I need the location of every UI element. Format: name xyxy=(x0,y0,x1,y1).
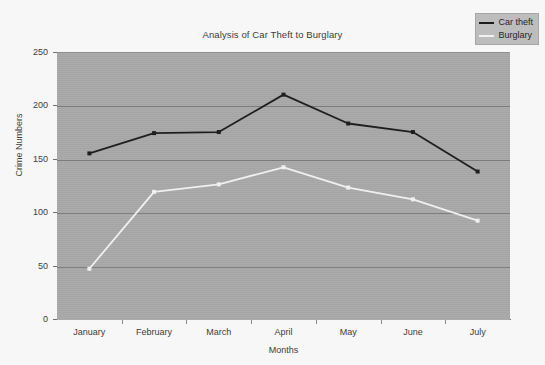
x-tick-label: February xyxy=(136,327,172,337)
y-tick-label: 50 xyxy=(0,261,48,271)
data-point xyxy=(346,121,350,125)
data-point xyxy=(152,131,156,135)
legend-item-car-theft[interactable]: Car theft xyxy=(479,17,533,28)
x-tick-mark xyxy=(186,320,187,324)
series-line-burglary xyxy=(89,167,477,268)
y-tick-mark xyxy=(53,52,57,53)
series-lines xyxy=(57,53,510,320)
x-tick-mark xyxy=(251,320,252,324)
x-tick-label: March xyxy=(206,327,231,337)
data-point xyxy=(411,130,415,134)
y-tick-label: 150 xyxy=(0,154,48,164)
legend-swatch-burglary xyxy=(479,35,494,37)
y-tick-label: 250 xyxy=(0,47,48,57)
chart-figure: Analysis of Car Theft to Burglary Car th… xyxy=(0,0,545,365)
legend-label-car-theft: Car theft xyxy=(498,17,533,28)
y-tick-label: 0 xyxy=(0,314,48,324)
data-point xyxy=(346,186,350,190)
plot-area xyxy=(57,52,510,320)
chart-title: Analysis of Car Theft to Burglary xyxy=(0,29,545,40)
y-tick-label: 200 xyxy=(0,100,48,110)
y-tick-mark xyxy=(53,212,57,213)
data-point xyxy=(282,93,286,97)
y-tick-label: 100 xyxy=(0,207,48,217)
data-point xyxy=(87,267,91,271)
x-tick-label: January xyxy=(73,327,105,337)
series-line-car-theft xyxy=(89,95,477,172)
chart-legend: Car theft Burglary xyxy=(475,13,539,45)
x-tick-mark xyxy=(381,320,382,324)
data-point xyxy=(282,165,286,169)
data-point xyxy=(411,197,415,201)
data-point xyxy=(217,130,221,134)
y-tick-mark xyxy=(53,266,57,267)
data-point xyxy=(87,151,91,155)
x-tick-label: July xyxy=(470,327,486,337)
data-point xyxy=(152,190,156,194)
legend-label-burglary: Burglary xyxy=(498,30,532,41)
legend-swatch-car-theft xyxy=(479,22,494,24)
y-tick-mark xyxy=(53,105,57,106)
x-axis-title: Months xyxy=(57,345,510,355)
x-tick-label: May xyxy=(340,327,357,337)
legend-item-burglary[interactable]: Burglary xyxy=(479,30,533,41)
data-point xyxy=(476,170,480,174)
data-point xyxy=(217,182,221,186)
x-tick-mark xyxy=(122,320,123,324)
data-point xyxy=(476,219,480,223)
y-tick-mark xyxy=(53,319,57,320)
x-tick-mark xyxy=(445,320,446,324)
y-tick-mark xyxy=(53,159,57,160)
chart-screenshot: Analysis of Car Theft to Burglary Car th… xyxy=(0,0,545,365)
x-tick-label: June xyxy=(403,327,423,337)
x-tick-mark xyxy=(316,320,317,324)
x-tick-label: April xyxy=(274,327,292,337)
